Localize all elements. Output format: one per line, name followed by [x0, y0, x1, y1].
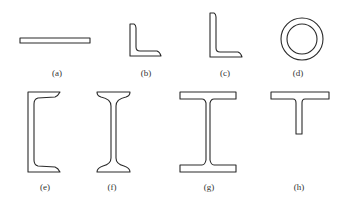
label-c: (c) [220, 69, 230, 78]
t-section [271, 92, 329, 134]
tapered-i-beam-section [97, 92, 130, 172]
equal-angle-section [130, 24, 161, 56]
label-d: (d) [293, 69, 304, 78]
cross-sections-diagram [0, 0, 344, 204]
label-f: (f) [108, 183, 117, 192]
label-g: (g) [204, 183, 215, 192]
h-beam-section [180, 92, 236, 172]
unequal-angle-section [210, 13, 242, 57]
channel-section [28, 92, 60, 172]
label-e: (e) [40, 183, 50, 192]
label-a: (a) [52, 69, 62, 78]
label-h: (h) [294, 183, 305, 192]
label-b: (b) [141, 69, 152, 78]
circular-tube-section [281, 18, 323, 60]
flat-bar-section [20, 38, 90, 43]
